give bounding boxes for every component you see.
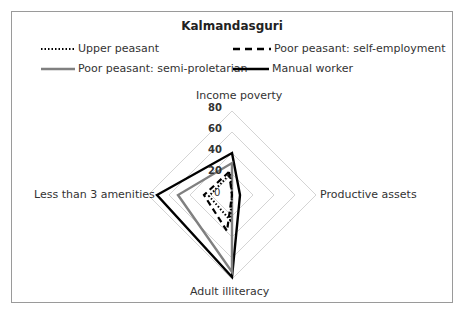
- radar-plot: [0, 0, 462, 309]
- axis-label-income-poverty: Income poverty: [196, 89, 282, 102]
- series-manual-worker: [157, 153, 240, 277]
- tick-80: 80: [208, 102, 222, 113]
- tick-0: 0: [214, 187, 220, 198]
- axis-label-productive-assets: Productive assets: [320, 188, 417, 201]
- tick-60: 60: [208, 123, 222, 134]
- tick-40: 40: [208, 144, 222, 155]
- axis-label-adult-illiteracy: Adult illiteracy: [190, 285, 269, 298]
- tick-20: 20: [208, 165, 222, 176]
- axis-label-less-than-3-amenities: Less than 3 amenities: [34, 188, 155, 201]
